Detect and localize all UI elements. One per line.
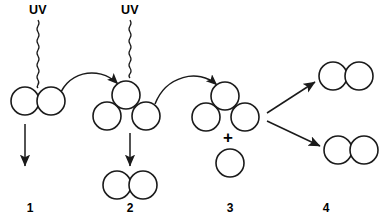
uv-ray-2	[129, 20, 131, 78]
uv-label-2: UV	[121, 3, 139, 17]
group-4-molecule-bottom	[324, 136, 378, 164]
group-1-molecule	[11, 87, 65, 115]
curved-arrow-2-to-3	[155, 76, 217, 104]
branch-arrow-lower	[267, 121, 320, 146]
reaction-scheme-svg: UV UV + 1 2 3 4	[0, 0, 392, 223]
group-2-product-molecule	[103, 171, 157, 199]
diagram-canvas: UV UV + 1 2 3 4	[0, 0, 392, 223]
group-3-molecule	[192, 82, 259, 131]
group-2-molecule	[93, 81, 160, 130]
step-number-4: 4	[323, 201, 330, 215]
curved-arrow-1-to-2	[58, 73, 118, 101]
step-number-2: 2	[127, 201, 134, 215]
group-4-molecule-top	[319, 62, 373, 90]
branch-arrow-upper	[267, 82, 315, 113]
group-3-free-molecule	[216, 149, 244, 177]
step-number-1: 1	[27, 201, 34, 215]
step-number-3: 3	[227, 201, 234, 215]
plus-sign: +	[223, 128, 233, 147]
uv-label-1: UV	[29, 3, 47, 17]
uv-ray-1	[37, 20, 39, 88]
